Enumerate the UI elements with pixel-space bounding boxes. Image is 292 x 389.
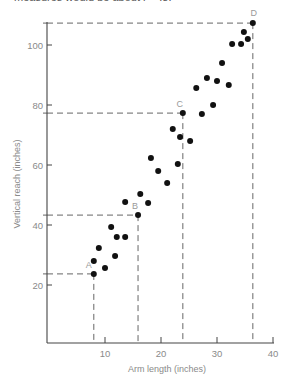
data-point xyxy=(214,78,220,84)
point-label-c: C xyxy=(177,99,184,109)
data-point xyxy=(96,245,102,251)
data-point xyxy=(229,41,235,47)
data-point xyxy=(170,126,176,132)
data-point xyxy=(112,253,118,259)
data-point xyxy=(219,60,225,66)
data-point xyxy=(102,265,108,271)
x-axis-label: Arm length (inches) xyxy=(128,364,206,374)
y-tick-label: 40 xyxy=(32,220,43,231)
data-point xyxy=(187,138,193,144)
point-label-b: B xyxy=(132,201,138,211)
data-point xyxy=(199,111,205,117)
data-point xyxy=(114,234,120,240)
x-tick-label: 40 xyxy=(268,348,279,359)
data-point xyxy=(135,212,141,218)
data-point xyxy=(164,180,170,186)
x-tick-label: 30 xyxy=(212,348,223,359)
axes xyxy=(47,22,274,343)
y-tick-label: 20 xyxy=(32,280,43,291)
data-point xyxy=(180,110,186,116)
x-tick-label: 10 xyxy=(100,348,111,359)
scatter-chart: 20406080100 10203040 ABCD Arm length (in… xyxy=(0,0,292,389)
y-tick-label: 60 xyxy=(32,160,43,171)
data-point xyxy=(210,102,216,108)
data-point xyxy=(137,191,143,197)
point-label-d: D xyxy=(251,8,258,18)
y-ticks: 20406080100 xyxy=(27,40,52,291)
point-label-a: A xyxy=(86,260,92,270)
data-point xyxy=(91,271,97,277)
data-point xyxy=(245,36,251,42)
data-point xyxy=(241,29,247,35)
data-points xyxy=(91,20,256,277)
data-point xyxy=(175,161,181,167)
data-point xyxy=(250,20,256,26)
data-point xyxy=(155,168,161,174)
data-point xyxy=(238,41,244,47)
x-tick-label: 20 xyxy=(156,348,167,359)
data-point xyxy=(148,155,154,161)
y-axis-label: Vertical reach (inches) xyxy=(12,139,22,228)
y-tick-label: 80 xyxy=(32,100,43,111)
data-point xyxy=(177,134,183,140)
x-ticks: 10203040 xyxy=(100,337,279,359)
data-point xyxy=(122,234,128,240)
data-point xyxy=(193,85,199,91)
data-point xyxy=(145,200,151,206)
data-point xyxy=(204,75,210,81)
data-point xyxy=(226,82,232,88)
data-point xyxy=(122,199,128,205)
dashed-guides xyxy=(43,23,253,343)
y-tick-label: 100 xyxy=(27,40,43,51)
point-labels: ABCD xyxy=(86,8,258,270)
data-point xyxy=(108,224,114,230)
